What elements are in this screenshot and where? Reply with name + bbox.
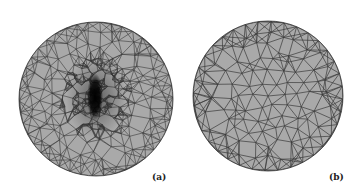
- panel-b-label: (b): [329, 172, 344, 182]
- panel-a-mesh: [19, 22, 173, 176]
- mesh-figure: [0, 0, 362, 194]
- panel-a-label: (a): [152, 172, 166, 182]
- panel-b-mesh: [193, 21, 343, 171]
